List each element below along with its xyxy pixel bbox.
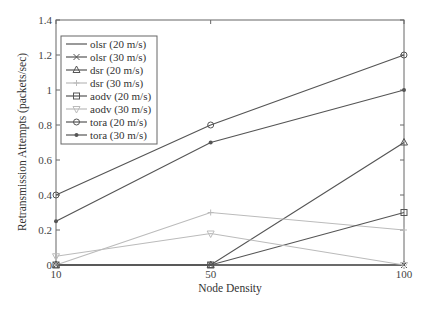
series-aodv-20-m-s [53, 210, 407, 269]
y-tick-label: 0.4 [38, 189, 52, 201]
legend-label: dsr (20 m/s) [90, 64, 144, 77]
legend-label: tora (30 m/s) [90, 129, 147, 142]
legend-label: dsr (30 m/s) [90, 77, 144, 90]
legend-label: olsr (30 m/s) [90, 51, 147, 64]
y-tick-label: 0.8 [38, 119, 52, 131]
x-tick-label: 10 [51, 268, 63, 280]
y-tick-label: 1 [47, 84, 53, 96]
legend-label: aodv (20 m/s) [90, 90, 151, 103]
x-axis-label: Node Density [198, 282, 262, 295]
legend-label: aodv (30 m/s) [90, 103, 151, 116]
legend-label: tora (20 m/s) [90, 116, 147, 129]
x-tick-label: 100 [396, 268, 413, 280]
y-tick-label: 1.2 [38, 49, 52, 61]
y-tick-label: 1.4 [38, 14, 52, 26]
y-tick-label: 0.6 [38, 154, 52, 166]
y-axis-label: Retransmission Attempts (packets/sec) [16, 53, 29, 231]
x-tick-label: 50 [205, 268, 217, 280]
y-tick-label: 0.2 [38, 224, 52, 236]
legend-label: olsr (20 m/s) [90, 38, 147, 51]
line-chart: 00.20.40.60.811.21.4 1050100 Node Densit… [0, 0, 433, 309]
series-aodv-30-m-s [53, 231, 408, 269]
legend: olsr (20 m/s)olsr (30 m/s)dsr (20 m/s)ds… [61, 36, 157, 144]
